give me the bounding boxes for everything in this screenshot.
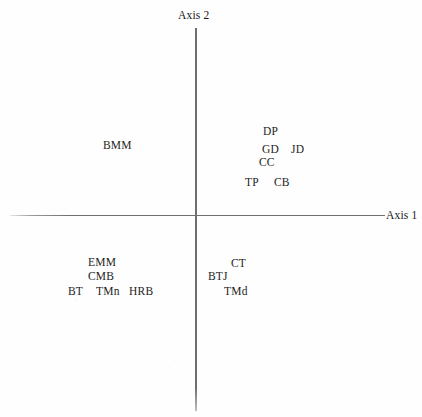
data-label-hrb: HRB bbox=[129, 286, 153, 298]
data-label-cmb: CMB bbox=[88, 271, 114, 283]
data-label-cb: CB bbox=[274, 177, 290, 189]
x-axis-line bbox=[10, 215, 385, 216]
x-axis-title: Axis 1 bbox=[386, 209, 418, 221]
data-label-tmn: TMn bbox=[96, 286, 120, 298]
data-label-gd: GD bbox=[262, 144, 279, 156]
data-label-emm: EMM bbox=[88, 257, 116, 269]
data-label-cc: CC bbox=[259, 157, 275, 169]
scatter-plot: Axis 2 Axis 1 BMM DP GD JD CC TP CB EMM … bbox=[0, 0, 422, 417]
scan-grain-overlay bbox=[0, 0, 422, 417]
data-label-jd: JD bbox=[291, 144, 304, 156]
data-label-ct: CT bbox=[231, 258, 246, 270]
y-axis-title: Axis 2 bbox=[178, 9, 210, 21]
data-label-bt: BT bbox=[68, 286, 83, 298]
data-label-bmm: BMM bbox=[103, 140, 132, 152]
data-label-tp: TP bbox=[245, 177, 259, 189]
data-label-tmd: TMd bbox=[224, 286, 248, 298]
y-axis-line bbox=[195, 28, 197, 411]
data-label-btj: BTJ bbox=[208, 271, 228, 283]
data-label-dp: DP bbox=[263, 126, 278, 138]
